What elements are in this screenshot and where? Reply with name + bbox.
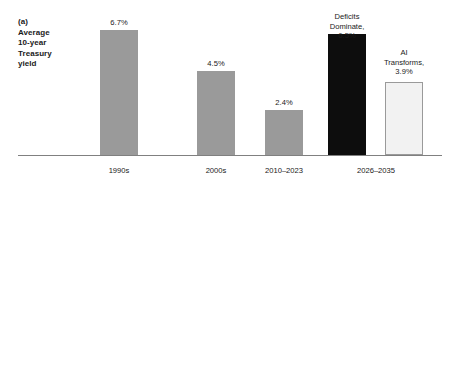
panel-a-tick-2000s: 2000s (186, 166, 246, 176)
panel-a-bar-1990s (100, 30, 138, 155)
panel-a-value-2010-2023: 2.4% (254, 98, 314, 108)
panel-a-tick-2026-2035: 2026–2035 (344, 166, 408, 176)
panel-a-bar-deficits-dominate (328, 34, 366, 155)
panel-a-axis-line (18, 155, 442, 156)
panel-a-bar-2010-2023 (265, 110, 303, 155)
panel-a-bar-2000s (197, 71, 235, 155)
panel-a-tick-1990s: 1990s (89, 166, 149, 176)
panel-a-tick-2010-2023: 2010–2023 (252, 166, 316, 176)
panel-a-value-1990s: 6.7% (89, 18, 149, 28)
panel-a-value-ai-transforms: AI Transforms, 3.9% (368, 48, 440, 77)
figure-two-panel-bar-chart: (a) Average 10-year Treasury yield 6.7% … (0, 0, 460, 375)
panel-a-label: (a) Average 10-year Treasury yield (18, 17, 92, 70)
panel-b: (b) Stock returns (annualized) 18.2% -0.… (0, 185, 460, 375)
panel-a-value-deficits-dominate: Deficits Dominate, 6.5% (311, 12, 383, 41)
panel-a: (a) Average 10-year Treasury yield 6.7% … (0, 0, 460, 190)
panel-a-bar-ai-transforms (385, 82, 423, 155)
panel-a-value-2000s: 4.5% (186, 59, 246, 69)
